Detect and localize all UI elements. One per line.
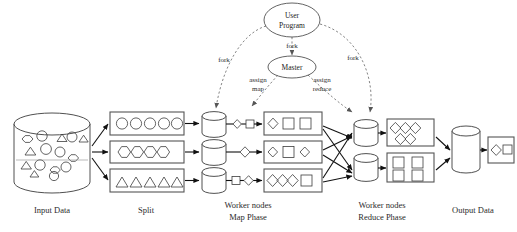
split-3 — [110, 169, 184, 192]
master-label: Master — [282, 63, 303, 72]
reduce-worker-1 — [354, 119, 434, 146]
input-cylinder — [14, 113, 90, 193]
user-program-node[interactable]: User Program — [264, 3, 320, 37]
caption-output-data: Output Data — [452, 205, 494, 215]
reduce-worker-2 — [354, 153, 434, 182]
split-2 — [110, 141, 184, 163]
user-program-label-line2: Program — [279, 21, 305, 30]
map-output-3 — [264, 169, 322, 192]
assign-map-label-line2: map — [252, 85, 265, 93]
map-output-2 — [264, 141, 322, 163]
caption-worker-map-line2: Map Phase — [229, 212, 267, 222]
caption-worker-reduce-line2: Reduce Phase — [358, 212, 406, 222]
master-node[interactable]: Master — [268, 56, 316, 78]
caption-worker-reduce-line1: Worker nodes — [358, 200, 405, 210]
assign-reduce-label-line2: reduce — [313, 85, 332, 93]
caption-input-data: Input Data — [34, 205, 70, 215]
fork-right-label: fork — [347, 54, 359, 62]
map-output-1 — [264, 112, 322, 135]
fork-left-label: fork — [218, 56, 230, 64]
caption-worker-map-line1: Worker nodes — [224, 200, 271, 210]
user-program-label-line1: User — [285, 11, 300, 20]
caption-split: Split — [138, 205, 155, 215]
mapreduce-diagram: User Program Master fork fork fork assig… — [0, 0, 517, 232]
fork-center-label: fork — [286, 42, 298, 50]
assign-map-label-line1: assign — [249, 76, 267, 84]
split-1 — [110, 112, 184, 135]
assign-reduce-label-line1: assign — [313, 76, 331, 84]
output-result-box — [488, 137, 514, 163]
